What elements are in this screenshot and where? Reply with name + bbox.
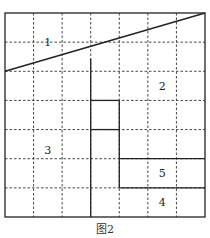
outer-frame <box>5 13 205 217</box>
region-label-2: 2 <box>159 80 166 93</box>
dashed-grid-lines <box>5 13 205 217</box>
region-label-5: 5 <box>159 167 166 180</box>
region-label-3: 3 <box>44 144 51 157</box>
region-label-1: 1 <box>44 36 51 49</box>
figure-caption: 图2 <box>96 223 114 236</box>
region-label-4: 4 <box>159 196 166 209</box>
grid-diagram: 12354 图2 <box>0 0 210 238</box>
diagonal-line <box>5 13 205 71</box>
